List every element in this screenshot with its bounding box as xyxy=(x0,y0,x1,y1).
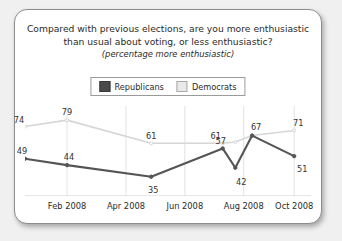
legend-label-republicans: Republicans xyxy=(114,82,163,92)
legend-swatch-democrats xyxy=(177,81,188,92)
data-label: 61 xyxy=(146,131,156,141)
title-line-1: Compared with previous elections, are yo… xyxy=(15,23,321,36)
data-point xyxy=(292,154,295,157)
data-point xyxy=(250,134,253,137)
legend-swatch-republicans xyxy=(99,81,110,92)
chart-svg xyxy=(25,106,311,196)
x-axis: Feb 2008Apr 2008Jun 2008Aug 2008Oct 2008 xyxy=(25,198,311,218)
data-point xyxy=(25,125,27,128)
data-point xyxy=(66,119,69,122)
chart-legend: Republicans Democrats xyxy=(90,77,245,96)
data-label: 67 xyxy=(251,122,261,132)
legend-item-democrats: Democrats xyxy=(177,81,237,92)
data-label: 35 xyxy=(148,185,158,195)
legend-item-republicans: Republicans xyxy=(99,81,163,92)
chart-card: Compared with previous elections, are yo… xyxy=(14,9,322,224)
x-tick-label: Jun 2008 xyxy=(166,201,203,211)
title-line-2: than usual about voting, or less enthusi… xyxy=(15,36,321,49)
data-point xyxy=(221,147,224,150)
x-tick-label: Apr 2008 xyxy=(107,201,145,211)
data-point xyxy=(150,142,153,145)
data-point xyxy=(234,166,237,169)
data-label: 42 xyxy=(236,177,246,187)
data-point xyxy=(25,157,27,160)
data-label: 44 xyxy=(64,152,74,162)
data-point xyxy=(149,175,152,178)
x-tick-label: Feb 2008 xyxy=(48,201,86,211)
data-label: 71 xyxy=(293,118,303,128)
data-label: 74 xyxy=(14,115,24,125)
title-subtitle: (percentage more enthusiastic) xyxy=(15,48,321,61)
data-point xyxy=(65,163,68,166)
legend-label-democrats: Democrats xyxy=(192,82,237,92)
x-tick-label: Oct 2008 xyxy=(275,201,313,211)
data-point xyxy=(293,129,296,132)
x-tick-label: Aug 2008 xyxy=(224,201,264,211)
plot-area: 494435574267517479616171 xyxy=(25,106,311,196)
chart-title: Compared with previous elections, are yo… xyxy=(15,23,321,61)
data-point xyxy=(234,141,237,144)
data-label: 51 xyxy=(297,164,307,174)
data-label: 49 xyxy=(17,146,27,156)
data-label: 79 xyxy=(62,107,72,117)
data-label: 61 xyxy=(210,131,220,141)
